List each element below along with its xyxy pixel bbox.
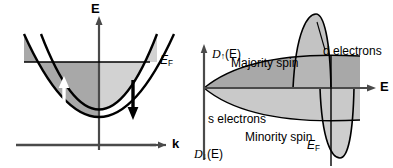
dos-fermi-level-label-E: E <box>307 138 315 152</box>
d-electrons-label: d electrons <box>323 45 382 57</box>
fermi-level-label-sub: F <box>168 59 173 68</box>
fermi-level-label: EF <box>160 54 173 68</box>
minority-spin-label: Minority spin <box>245 131 312 143</box>
d-band-minority-group <box>320 88 354 158</box>
d-band-minority-peak <box>320 88 354 158</box>
k-axis-label: k <box>172 137 179 150</box>
dos-down-arg: (E) <box>207 147 223 161</box>
physics-figure: E k EF <box>0 0 393 168</box>
E-axis-arrowhead <box>96 16 103 25</box>
s-electrons-label: s electrons <box>208 113 266 125</box>
dos-up-symbol: D <box>212 47 221 61</box>
band-dispersion-panel: E k EF <box>0 0 196 168</box>
energy-axis-label: E <box>380 80 389 93</box>
energy-axis-arrowhead <box>367 84 376 91</box>
band-dispersion-svg <box>0 0 196 168</box>
dos-fermi-level-label: EF <box>307 139 320 153</box>
dos-fermi-level-label-sub: F <box>315 144 320 153</box>
dos-down-symbol: D <box>194 147 203 161</box>
k-axis-arrowhead <box>158 142 166 149</box>
dos-down-axis-label: D↓(E) <box>194 148 223 161</box>
majority-spin-label: Majority spin <box>231 57 298 69</box>
fermi-level-label-E: E <box>160 53 168 67</box>
density-of-states-panel: D↑(E) D↓(E) Majority spin Minority spin … <box>190 0 393 168</box>
E-axis-label: E <box>91 2 100 15</box>
dos-axis-arrowhead <box>201 44 208 53</box>
